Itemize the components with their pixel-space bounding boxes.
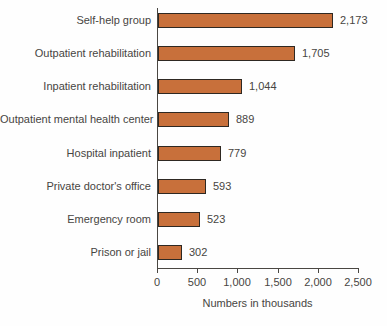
- x-tick-mark: [278, 268, 279, 273]
- value-label: 889: [236, 112, 254, 127]
- x-tick-label: 500: [188, 276, 206, 288]
- category-label: Self-help group: [0, 13, 151, 28]
- x-tick-mark: [157, 268, 158, 273]
- x-tick-mark: [358, 268, 359, 273]
- x-axis-title: Numbers in thousands: [202, 297, 312, 309]
- bar: [158, 46, 295, 61]
- category-label: Hospital inpatient: [0, 146, 151, 161]
- x-tick-label: 2,500: [344, 276, 372, 288]
- value-label: 779: [228, 146, 246, 161]
- bar: [158, 112, 229, 127]
- x-axis-line: [157, 268, 359, 269]
- x-tick-label: 2,000: [304, 276, 332, 288]
- horizontal-bar-chart: Self-help group2,173Outpatient rehabilit…: [0, 0, 387, 326]
- category-label: Inpatient rehabilitation: [0, 79, 151, 94]
- category-label: Private doctor's office: [0, 179, 151, 194]
- category-label: Outpatient mental health center: [0, 112, 151, 127]
- bar: [158, 245, 182, 260]
- category-label: Prison or jail: [0, 245, 151, 260]
- y-axis-line: [157, 8, 158, 269]
- bar: [158, 212, 200, 227]
- value-label: 593: [213, 179, 231, 194]
- value-label: 2,173: [340, 13, 368, 28]
- x-tick-label: 1,500: [264, 276, 292, 288]
- x-tick-mark: [318, 268, 319, 273]
- bar: [158, 79, 242, 94]
- bar: [158, 13, 333, 28]
- value-label: 1,044: [249, 79, 277, 94]
- category-label: Outpatient rehabilitation: [0, 46, 151, 61]
- x-tick-label: 1,000: [223, 276, 251, 288]
- x-tick-mark: [197, 268, 198, 273]
- bar: [158, 146, 221, 161]
- bar: [158, 179, 206, 194]
- category-label: Emergency room: [0, 212, 151, 227]
- value-label: 523: [207, 212, 225, 227]
- value-label: 302: [189, 245, 207, 260]
- x-tick-label: 0: [154, 276, 160, 288]
- value-label: 1,705: [302, 46, 330, 61]
- x-tick-mark: [237, 268, 238, 273]
